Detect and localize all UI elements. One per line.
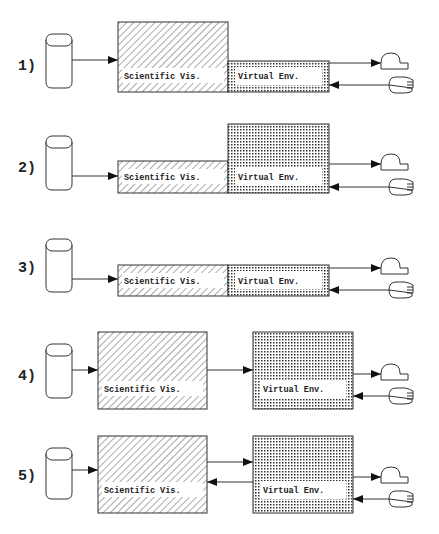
display-output-icon (381, 154, 408, 170)
database-cylinder-icon (46, 34, 72, 88)
virtual-env-label: Virtual Env. (263, 385, 324, 395)
virtual-env-box: Virtual Env. (228, 124, 329, 193)
virtual-env-box: Virtual Env. (228, 265, 329, 296)
scientific-vis-box: Scientific Vis. (118, 161, 228, 193)
display-output-icon (381, 467, 408, 483)
hand-input-icon (389, 282, 413, 298)
virtual-env-box: Virtual Env. (253, 332, 353, 409)
display-output-icon (381, 258, 408, 274)
database-cylinder-icon (46, 344, 72, 398)
hand-input-icon (389, 388, 413, 404)
scientific-vis-label: Scientific Vis. (124, 173, 201, 183)
virtual-env-label: Virtual Env. (238, 173, 299, 183)
virtual-env-label: Virtual Env. (238, 277, 299, 287)
database-cylinder-icon (46, 136, 72, 190)
display-output-icon (381, 53, 408, 69)
hand-input-icon (389, 179, 413, 195)
scientific-vis-label: Scientific Vis. (104, 486, 181, 496)
hand-input-icon (389, 491, 413, 507)
scientific-vis-box: Scientific Vis. (118, 22, 228, 92)
virtual-env-box: Virtual Env. (228, 61, 329, 92)
scientific-vis-box: Scientific Vis. (118, 265, 228, 296)
pipeline-diagram: 1) Scientific Vis. Virtual Env. 2) (0, 0, 439, 534)
row-2: 2) Scientific Vis. Virtual Env. (18, 124, 413, 195)
virtual-env-label: Virtual Env. (263, 486, 324, 496)
row-number: 3) (18, 260, 36, 277)
hand-input-icon (389, 77, 413, 93)
scientific-vis-box: Scientific Vis. (98, 436, 207, 513)
row-4: 4) Scientific Vis. Virtual Env. (18, 332, 413, 409)
scientific-vis-label: Scientific Vis. (104, 385, 181, 395)
scientific-vis-label: Scientific Vis. (124, 72, 201, 82)
row-5: 5) Scientific Vis. Virtual Env. (18, 436, 413, 513)
row-number: 4) (18, 368, 36, 385)
scientific-vis-label: Scientific Vis. (124, 277, 201, 287)
database-cylinder-icon (46, 239, 72, 292)
row-number: 5) (18, 468, 36, 485)
virtual-env-label: Virtual Env. (238, 72, 299, 82)
database-cylinder-icon (46, 448, 72, 499)
row-number: 1) (18, 58, 36, 75)
row-3: 3) Scientific Vis. Virtual Env. (18, 239, 413, 298)
virtual-env-box: Virtual Env. (253, 436, 353, 513)
scientific-vis-box: Scientific Vis. (98, 332, 207, 409)
display-output-icon (381, 364, 408, 380)
row-number: 2) (18, 160, 36, 177)
row-1: 1) Scientific Vis. Virtual Env. (18, 22, 413, 93)
